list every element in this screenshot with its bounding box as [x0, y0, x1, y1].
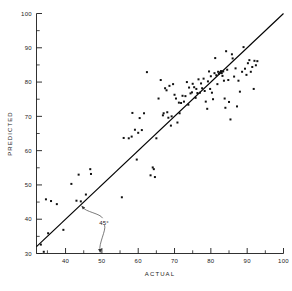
- y-tick-label: 60: [25, 148, 33, 154]
- data-point: [221, 75, 223, 77]
- data-point: [248, 59, 250, 61]
- x-tick-label: 90: [244, 258, 252, 264]
- data-point: [182, 95, 184, 97]
- data-point: [162, 114, 164, 116]
- data-point: [178, 102, 180, 104]
- data-point: [200, 82, 202, 84]
- data-point: [183, 101, 185, 103]
- data-point: [191, 91, 193, 93]
- y-tick-label: 50: [25, 182, 33, 188]
- data-point: [196, 92, 198, 94]
- data-point: [224, 107, 226, 109]
- data-point: [215, 74, 217, 76]
- data-point: [236, 105, 238, 107]
- data-point: [128, 137, 130, 139]
- axes-group: 30405060708090100405060708090100: [21, 11, 289, 264]
- y-tick-label: 80: [25, 79, 33, 85]
- scatter-plot-figure: 30405060708090100405060708090100 45° ACT…: [0, 0, 292, 291]
- data-point: [136, 159, 138, 161]
- data-point: [233, 76, 235, 78]
- data-point: [152, 166, 154, 168]
- data-point: [123, 137, 125, 139]
- data-point: [243, 46, 245, 48]
- data-point: [226, 69, 228, 71]
- data-point: [176, 122, 178, 124]
- data-point: [188, 87, 190, 89]
- data-point: [90, 173, 92, 175]
- data-point: [166, 111, 168, 113]
- data-point: [206, 108, 208, 110]
- x-tick-label: 80: [207, 258, 215, 264]
- data-point: [250, 71, 252, 73]
- data-point: [172, 83, 174, 85]
- data-point: [231, 53, 233, 55]
- data-point: [217, 71, 219, 73]
- data-point: [75, 200, 77, 202]
- data-point: [209, 88, 211, 90]
- data-point: [204, 90, 206, 92]
- data-point: [150, 174, 152, 176]
- x-tick-label: 50: [98, 258, 106, 264]
- data-point: [153, 168, 155, 170]
- data-point: [220, 70, 222, 72]
- data-point: [256, 60, 258, 62]
- data-point: [253, 60, 255, 62]
- data-point: [241, 71, 243, 73]
- data-point: [247, 62, 249, 64]
- data-point: [70, 183, 72, 185]
- data-point: [201, 87, 203, 89]
- data-point: [222, 70, 224, 72]
- data-point: [208, 70, 210, 72]
- annotation-group: 45°: [81, 206, 109, 253]
- data-point: [139, 117, 141, 119]
- data-point: [155, 137, 157, 139]
- data-point: [167, 117, 169, 119]
- data-point: [225, 50, 227, 52]
- data-point: [227, 79, 229, 81]
- data-point: [146, 71, 148, 73]
- data-point: [131, 112, 133, 114]
- data-point: [78, 174, 80, 176]
- angle-leader-to-line: [83, 207, 103, 218]
- data-point: [186, 81, 188, 83]
- data-points-group: [40, 46, 258, 253]
- data-point: [50, 200, 52, 202]
- data-point: [237, 80, 239, 82]
- data-point: [158, 98, 160, 100]
- data-point: [239, 91, 241, 93]
- data-point: [168, 85, 170, 87]
- data-point: [89, 168, 91, 170]
- data-point: [85, 194, 87, 196]
- data-point: [43, 251, 45, 253]
- x-axis-title: ACTUAL: [145, 271, 175, 277]
- angle-leader-to-axis: [100, 225, 105, 250]
- data-point: [179, 112, 181, 114]
- data-point: [235, 67, 237, 69]
- data-point: [174, 94, 176, 96]
- data-point: [143, 112, 145, 114]
- reference-line-45deg: [37, 14, 284, 247]
- data-point: [184, 95, 186, 97]
- data-point: [192, 83, 194, 85]
- data-point: [80, 200, 82, 202]
- y-axis-title: PREDICTED: [7, 111, 13, 156]
- data-point: [221, 72, 223, 74]
- y-tick-label: 70: [25, 114, 33, 120]
- data-point: [198, 78, 200, 80]
- data-point: [251, 66, 253, 68]
- data-point: [170, 125, 172, 127]
- data-point: [211, 92, 213, 94]
- data-point: [224, 98, 226, 100]
- data-point: [47, 232, 49, 234]
- data-point: [195, 88, 197, 90]
- data-point: [40, 244, 42, 246]
- x-tick-label: 60: [135, 258, 143, 264]
- data-point: [203, 78, 205, 80]
- data-point: [163, 112, 165, 114]
- data-point: [131, 136, 133, 138]
- y-tick-label: 30: [25, 251, 33, 257]
- data-point: [207, 80, 209, 82]
- x-tick-label: 100: [278, 258, 289, 264]
- data-point: [213, 72, 215, 74]
- data-point: [223, 80, 225, 82]
